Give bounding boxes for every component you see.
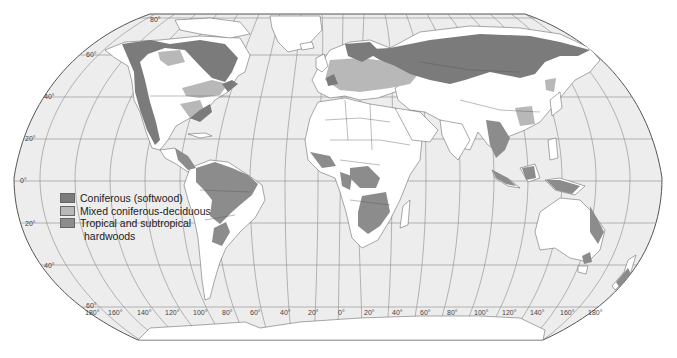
svg-text:80°: 80°: [447, 309, 458, 316]
svg-text:60°: 60°: [420, 309, 431, 316]
coniferous-swatch: [60, 193, 75, 203]
mixed-swatch: [60, 206, 75, 216]
svg-text:140°: 140°: [137, 309, 152, 316]
svg-text:100°: 100°: [474, 309, 489, 316]
svg-text:60°: 60°: [250, 309, 261, 316]
legend-label: Mixed coniferous-deciduous: [80, 205, 211, 218]
svg-text:40°: 40°: [392, 309, 403, 316]
svg-text:80°: 80°: [150, 16, 161, 23]
svg-text:40°: 40°: [280, 309, 291, 316]
svg-text:80°: 80°: [222, 309, 233, 316]
svg-text:20°: 20°: [25, 220, 36, 227]
legend-item-tropical: Tropical and subtropical: [60, 217, 211, 230]
legend-label-continuation: hardwoods: [60, 230, 211, 243]
svg-text:160°: 160°: [560, 309, 575, 316]
svg-text:0°: 0°: [338, 309, 345, 316]
world-forest-map: 80° 60° 40° 20° 0° 20° 40° 60° 180° 160°…: [0, 0, 677, 358]
svg-text:20°: 20°: [308, 309, 319, 316]
map-legend: Coniferous (softwood) Mixed coniferous-d…: [60, 192, 211, 242]
svg-text:60°: 60°: [86, 302, 97, 309]
svg-text:140°: 140°: [530, 309, 545, 316]
svg-text:100°: 100°: [193, 309, 208, 316]
svg-text:120°: 120°: [165, 309, 180, 316]
svg-text:20°: 20°: [25, 135, 36, 142]
svg-text:20°: 20°: [364, 309, 375, 316]
legend-item-coniferous: Coniferous (softwood): [60, 192, 211, 205]
tropical-swatch: [60, 218, 75, 228]
svg-text:60°: 60°: [86, 51, 97, 58]
svg-text:180°: 180°: [85, 309, 100, 316]
svg-text:180°: 180°: [588, 309, 603, 316]
legend-label: Tropical and subtropical: [80, 217, 191, 230]
legend-item-mixed: Mixed coniferous-deciduous: [60, 205, 211, 218]
svg-text:160°: 160°: [108, 309, 123, 316]
svg-text:40°: 40°: [44, 262, 55, 269]
svg-text:40°: 40°: [44, 93, 55, 100]
svg-text:120°: 120°: [502, 309, 517, 316]
legend-label: Coniferous (softwood): [80, 192, 183, 205]
svg-text:0°: 0°: [20, 177, 27, 184]
